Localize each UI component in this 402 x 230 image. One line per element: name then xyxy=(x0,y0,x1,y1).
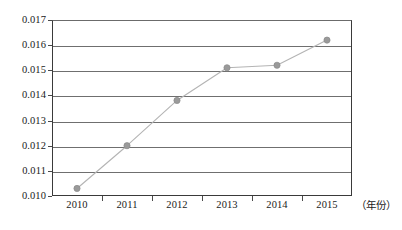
x-tick-mark xyxy=(152,196,153,201)
x-tick-label: 2010 xyxy=(52,200,102,211)
gridline xyxy=(53,96,351,97)
y-tick-label: 0.016 xyxy=(22,40,46,51)
x-tick-label: 2012 xyxy=(152,200,202,211)
gridline xyxy=(53,71,351,72)
y-tick-label: 0.010 xyxy=(22,191,46,202)
x-tick-label: 2011 xyxy=(102,200,152,211)
gridline xyxy=(53,172,351,173)
y-tick-label: 0.014 xyxy=(22,90,46,101)
x-tick-label: 2014 xyxy=(252,200,302,211)
x-tick-mark xyxy=(102,196,103,201)
gridline xyxy=(53,147,351,148)
x-axis-title: （年份） xyxy=(356,200,396,211)
x-tick-mark xyxy=(252,196,253,201)
y-tick-mark xyxy=(48,171,52,172)
y-tick-mark xyxy=(48,196,52,197)
y-tick-label: 0.017 xyxy=(22,15,46,26)
gridline xyxy=(53,46,351,47)
y-tick-mark xyxy=(48,20,52,21)
y-tick-mark xyxy=(48,45,52,46)
y-tick-mark xyxy=(48,121,52,122)
y-tick-mark xyxy=(48,70,52,71)
x-tick-mark xyxy=(302,196,303,201)
x-tick-label: 2015 xyxy=(302,200,352,211)
line-chart: 0.0100.0110.0120.0130.0140.0150.0160.017… xyxy=(0,0,402,230)
plot-area xyxy=(52,20,352,196)
y-tick-label: 0.011 xyxy=(22,166,46,177)
y-tick-label: 0.012 xyxy=(22,141,46,152)
y-tick-mark xyxy=(48,146,52,147)
y-tick-label: 0.015 xyxy=(22,65,46,76)
gridline xyxy=(53,122,351,123)
y-tick-mark xyxy=(48,95,52,96)
x-tick-label: 2013 xyxy=(202,200,252,211)
y-tick-label: 0.013 xyxy=(22,116,46,127)
x-tick-mark xyxy=(202,196,203,201)
